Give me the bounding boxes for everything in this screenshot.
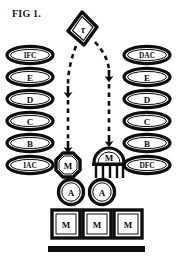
circle-node-a-2[interactable]: A [90,180,115,205]
right-node-c-label: C [144,117,151,127]
circle-node-a-1-label: A [68,188,75,198]
tau-source[interactable]: τ [68,12,97,45]
figure-canvas: FIG 1. τ [0,0,176,260]
left-node-iac[interactable]: IAC [7,156,53,173]
left-node-e-label: E [27,73,33,83]
dome-node-m[interactable]: M [92,148,126,178]
left-node-ifc-label: IFC [24,51,37,60]
left-node-c-label: C [27,117,34,127]
right-node-dfc-label: DFC [139,161,154,170]
square-node-m-2-label: M [93,220,102,230]
square-node-m-1-label: M [62,220,71,230]
right-node-b-label: B [144,139,150,149]
right-node-dfc[interactable]: DFC [124,156,170,173]
right-node-b[interactable]: B [124,134,170,151]
octagon-node-m-label: M [64,161,73,171]
right-node-e-label: E [144,73,150,83]
left-node-c[interactable]: C [7,112,53,129]
octagon-node-m[interactable]: M [56,153,80,177]
left-node-b[interactable]: B [7,134,53,151]
base-bar [48,246,145,252]
square-node-m-3[interactable]: M [114,210,142,238]
left-node-iac-label: IAC [23,161,37,170]
right-node-d-label: D [144,95,151,105]
right-node-e[interactable]: E [124,68,170,85]
circle-node-a-2-label: A [99,188,106,198]
square-node-m-2[interactable]: M [83,210,111,238]
left-node-ifc[interactable]: IFC [7,46,53,63]
square-node-m-3-label: M [124,220,133,230]
left-node-d-label: D [27,95,34,105]
left-node-b-label: B [27,139,33,149]
arrow-right [95,42,109,143]
square-node-m-1[interactable]: M [52,210,80,238]
dome-node-m-label: M [105,153,114,163]
circle-node-a-1[interactable]: A [59,180,84,205]
right-node-dac[interactable]: DAC [124,46,170,63]
figure-diagram: τ IFC E D C [0,0,176,260]
left-pathway-column: IFC E D C B [7,46,53,173]
right-node-d[interactable]: D [124,90,170,107]
right-pathway-column: DAC E D C B [124,46,170,173]
left-node-e[interactable]: E [7,68,53,85]
tau-source-label: τ [81,24,86,35]
right-node-dac-label: DAC [139,51,155,60]
arrow-left [68,46,76,149]
right-node-c[interactable]: C [124,112,170,129]
left-node-d[interactable]: D [7,90,53,107]
